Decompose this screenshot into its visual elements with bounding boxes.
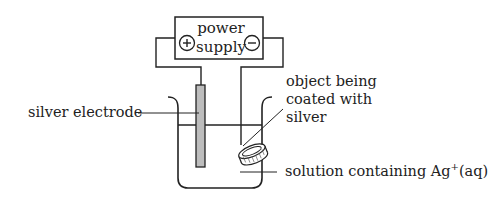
label-object-line2: coated with <box>286 91 372 107</box>
power-supply-label-line1: power <box>197 19 245 37</box>
beaker <box>168 97 272 188</box>
label-solution-tail: (aq) <box>459 163 488 179</box>
label-silver-electrode: silver electrode <box>28 104 142 120</box>
object-ring-icon <box>237 141 270 168</box>
negative-terminal-icon <box>245 36 260 51</box>
label-solution-sup: + <box>451 161 459 172</box>
electroplating-diagram: power supply silver electrode object bei… <box>0 0 501 202</box>
label-object-line1: object being <box>286 73 377 89</box>
power-supply: power supply <box>175 17 263 59</box>
label-solution: solution containing Ag+(aq) <box>285 161 488 179</box>
silver-electrode <box>196 85 205 167</box>
label-solution-main: solution containing Ag <box>285 163 451 179</box>
label-object-line3: silver <box>286 109 326 125</box>
power-supply-label-line2: supply <box>196 38 246 56</box>
positive-terminal-icon <box>180 36 195 51</box>
leader-object <box>243 109 283 146</box>
